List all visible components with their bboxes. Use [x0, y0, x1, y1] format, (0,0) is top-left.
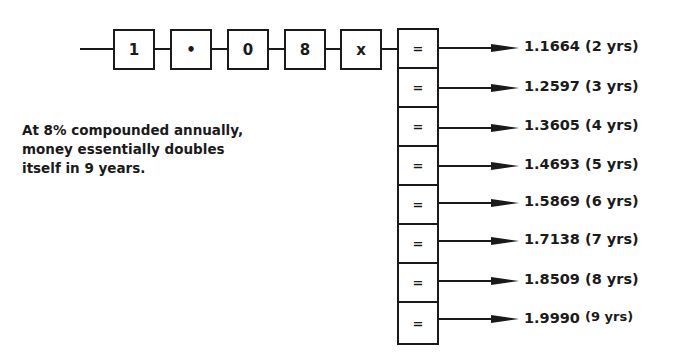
equals-label: = — [413, 158, 424, 173]
equals-key-7: = — [397, 262, 439, 303]
result-3yrs: 1.2597 (3 yrs) — [524, 78, 639, 94]
result-8yrs: 1.8509 (8 yrs) — [524, 271, 639, 287]
equals-label: = — [413, 80, 424, 95]
result-value: 1.1664 — [524, 38, 580, 54]
key-label: • — [186, 41, 196, 59]
result-value: 1.3605 — [524, 117, 580, 133]
arrow-icon — [439, 313, 519, 325]
key-8: 8 — [284, 29, 326, 70]
note-line: itself in 9 years. — [22, 159, 322, 178]
equals-key-1: = — [397, 28, 439, 69]
key-0: 0 — [227, 29, 269, 70]
equals-label: = — [413, 236, 424, 251]
result-7yrs: 1.7138 (7 yrs) — [524, 231, 639, 247]
equals-key-2: = — [397, 67, 439, 108]
result-value: 1.4693 — [524, 156, 580, 172]
arrow-icon — [439, 160, 519, 172]
equals-label: = — [413, 119, 424, 134]
result-5yrs: 1.4693 (5 yrs) — [524, 156, 639, 172]
key-label: x — [356, 41, 366, 59]
result-6yrs: 1.5869 (6 yrs) — [524, 193, 639, 209]
result-value: 1.7138 — [524, 231, 580, 247]
key-decimal: • — [170, 29, 212, 70]
result-years: (2 yrs) — [585, 38, 639, 54]
note-line: At 8% compounded annually, — [22, 121, 322, 140]
arrow-icon — [439, 122, 519, 134]
result-value: 1.8509 — [524, 271, 580, 287]
equals-key-4: = — [397, 145, 439, 186]
equals-label: = — [413, 275, 424, 290]
equals-key-8: = — [397, 301, 439, 345]
equals-label: = — [413, 316, 424, 331]
result-2yrs: 1.1664 (2 yrs) — [524, 38, 639, 54]
equals-key-3: = — [397, 106, 439, 147]
note-line: money essentially doubles — [22, 140, 322, 159]
key-multiply: x — [340, 29, 382, 70]
arrow-icon — [439, 235, 519, 247]
key-label: 0 — [243, 41, 253, 59]
result-years: (9 yrs) — [585, 309, 633, 324]
arrow-icon — [439, 42, 519, 54]
key-label: 1 — [129, 41, 139, 59]
result-years: (4 yrs) — [585, 117, 639, 133]
result-years: (8 yrs) — [585, 271, 639, 287]
equals-key-6: = — [397, 223, 439, 264]
key-label: 8 — [300, 41, 310, 59]
equals-label: = — [413, 41, 424, 56]
result-value: 1.9990 — [524, 310, 580, 326]
result-4yrs: 1.3605 (4 yrs) — [524, 117, 639, 133]
arrow-icon — [439, 275, 519, 287]
key-1: 1 — [113, 29, 155, 70]
result-years: (7 yrs) — [585, 231, 639, 247]
result-value: 1.5869 — [524, 193, 580, 209]
explanation-note: At 8% compounded annually, money essenti… — [22, 121, 322, 178]
result-years: (3 yrs) — [585, 78, 639, 94]
arrow-icon — [439, 197, 519, 209]
result-years: (5 yrs) — [585, 156, 639, 172]
result-value: 1.2597 — [524, 78, 580, 94]
equals-label: = — [413, 197, 424, 212]
arrow-icon — [439, 82, 519, 94]
result-9yrs: 1.9990 (9 yrs) — [524, 309, 633, 326]
equals-key-5: = — [397, 184, 439, 225]
result-years: (6 yrs) — [585, 193, 639, 209]
